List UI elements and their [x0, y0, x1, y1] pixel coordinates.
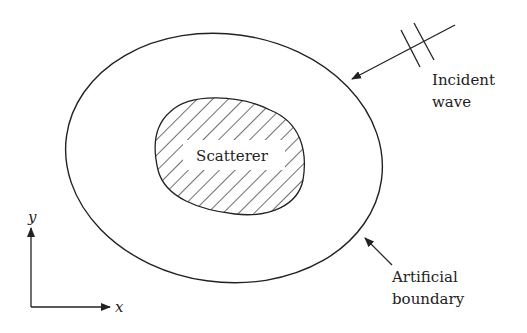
incident-wave-label-line2: wave [432, 93, 471, 111]
x-axis-label: x [115, 298, 124, 316]
scatterer-label: Scatterer [196, 147, 269, 165]
incident-wave-label-line1: Incident [432, 71, 495, 89]
artificial-boundary-label-line2: boundary [392, 290, 465, 308]
artificial-boundary-label-line1: Artificial [391, 268, 458, 286]
boundary-pointer-arrow [365, 238, 392, 265]
y-axis-label: y [27, 208, 37, 226]
scattering-diagram: Scatterer Incident wave Artificial bound… [0, 0, 527, 333]
coordinate-axes [31, 228, 110, 307]
